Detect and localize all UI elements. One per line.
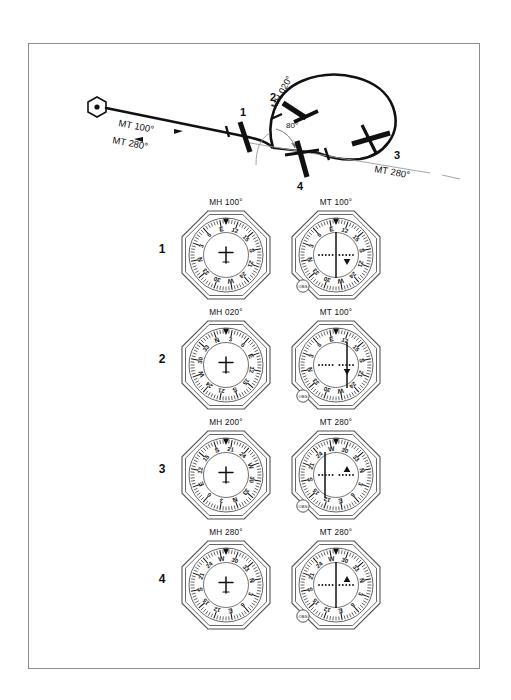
label-mt-radial: MT 280° [374, 163, 411, 180]
instrument-face: N36E1215S2124W3033 [176, 319, 276, 419]
heading-indicator[interactable]: MH 280°N36E1215S2124W3033 [176, 528, 276, 632]
instrument-caption: MH 280° [176, 528, 276, 537]
fix-marker-4 [285, 141, 329, 177]
row-number-label: 2 [153, 352, 171, 366]
instrument-caption: MH 020° [176, 308, 276, 317]
instrument-caption: MH 100° [176, 198, 276, 207]
instrument-face: N36E1215S2124W3033OBS [286, 209, 386, 309]
instrument-caption: MT 100° [286, 308, 386, 317]
waypoint-label-4: 4 [297, 180, 304, 192]
vor-cdi-indicator[interactable]: MT 280°N36E1215S2124W3033OBS [286, 528, 386, 632]
vor-cdi-indicator[interactable]: MT 100°N36E1215S2124W3033OBS [286, 308, 386, 412]
instrument-row: 3MH 200°N36E1215S2124W3033MT 280°N36E121… [28, 418, 480, 528]
instrument-face: N36E1215S2124W3033OBS [286, 539, 386, 639]
vor-cdi-indicator[interactable]: MT 280°N36E1215S2124W3033OBS [286, 418, 386, 522]
heading-indicator[interactable]: MH 020°N36E1215S2124W3033 [176, 308, 276, 412]
svg-text:OBS: OBS [299, 394, 308, 399]
page-root: MT 100° MT 280° MH 020° MT 280° 80° 1 2 … [0, 0, 511, 700]
instrument-face: N36E1215S2124W3033OBS [286, 319, 386, 419]
instrument-caption: MT 280° [286, 528, 386, 537]
vor-cdi-indicator[interactable]: MT 100°N36E1215S2124W3033OBS [286, 198, 386, 302]
waypoint-label-2: 2 [270, 91, 276, 103]
fix-marker-1 [226, 122, 250, 152]
instrument-caption: MT 100° [286, 198, 386, 207]
track-diagram: MT 100° MT 280° MH 020° MT 280° 80° 1 2 … [30, 45, 478, 200]
instrument-face: N36E1215S2124W3033 [176, 429, 276, 529]
heading-indicator[interactable]: MH 200°N36E1215S2124W3033 [176, 418, 276, 522]
instrument-caption: MT 280° [286, 418, 386, 427]
label-mt-inbound: MT 280° [112, 134, 149, 152]
instrument-row: 2MH 020°N36E1215S2124W3033MT 100°N36E121… [28, 308, 480, 418]
instrument-face: N36E1215S2124W3033OBS [286, 429, 386, 529]
row-number-label: 3 [153, 462, 171, 476]
instrument-face: N36E1215S2124W3033 [176, 209, 276, 309]
label-angle: 80° [286, 121, 298, 130]
waypoint-label-3: 3 [394, 149, 400, 161]
label-mt-outbound: MT 100° [118, 117, 155, 135]
waypoint-label-1: 1 [240, 106, 246, 118]
instrument-face: N36E1215S2124W3033 [176, 539, 276, 639]
heading-indicator[interactable]: MH 100°N36E1215S2124W3033 [176, 198, 276, 302]
svg-text:OBS: OBS [299, 504, 308, 509]
svg-text:OBS: OBS [299, 284, 308, 289]
instrument-grid: 1MH 100°N36E1215S2124W3033MT 100°N36E121… [28, 198, 480, 638]
row-number-label: 4 [153, 572, 171, 586]
instrument-row: 1MH 100°N36E1215S2124W3033MT 100°N36E121… [28, 198, 480, 308]
instrument-caption: MH 200° [176, 418, 276, 427]
row-number-label: 1 [153, 242, 171, 256]
vor-station-icon [88, 97, 106, 117]
svg-text:OBS: OBS [299, 614, 308, 619]
instrument-row: 4MH 280°N36E1215S2124W3033MT 280°N36E121… [28, 528, 480, 638]
